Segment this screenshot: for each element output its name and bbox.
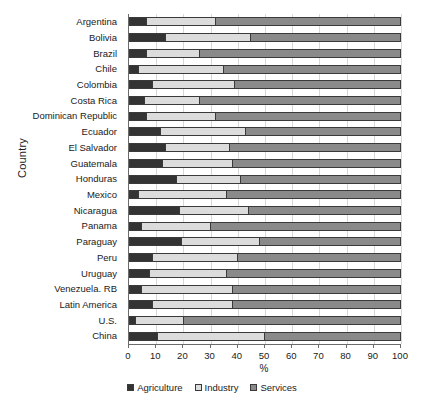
bar-segment-agriculture[interactable]: [130, 207, 179, 214]
bar-segment-agriculture[interactable]: [130, 34, 165, 41]
bar-segment-services[interactable]: [200, 97, 400, 104]
bar-row[interactable]: [129, 140, 401, 156]
bar-segment-agriculture[interactable]: [130, 160, 162, 167]
bar-segment-industry[interactable]: [138, 66, 224, 73]
bar-segment-industry[interactable]: [157, 333, 265, 340]
bar-segment-agriculture[interactable]: [130, 301, 152, 308]
bar-segment-services[interactable]: [249, 207, 400, 214]
bar-segment-agriculture[interactable]: [130, 254, 152, 261]
legend-item[interactable]: Services: [250, 382, 296, 393]
legend-item[interactable]: Agriculture: [127, 382, 182, 393]
bar-row[interactable]: [129, 234, 401, 250]
bar-segment-industry[interactable]: [176, 176, 241, 183]
bar-row[interactable]: [129, 297, 401, 313]
bar-segment-industry[interactable]: [181, 238, 259, 245]
bar-row[interactable]: [129, 14, 401, 30]
bar-segment-industry[interactable]: [152, 301, 233, 308]
bar-segment-industry[interactable]: [165, 34, 251, 41]
bar-segment-industry[interactable]: [162, 160, 232, 167]
stacked-bar[interactable]: [129, 285, 401, 294]
stacked-bar[interactable]: [129, 112, 401, 121]
bar-segment-industry[interactable]: [144, 97, 201, 104]
bar-segment-agriculture[interactable]: [130, 128, 160, 135]
bar-segment-industry[interactable]: [141, 286, 233, 293]
stacked-bar[interactable]: [129, 127, 401, 136]
bar-segment-services[interactable]: [233, 160, 400, 167]
bar-row[interactable]: [129, 328, 401, 344]
bar-segment-agriculture[interactable]: [130, 191, 138, 198]
bar-row[interactable]: [129, 187, 401, 203]
stacked-bar[interactable]: [129, 49, 401, 58]
stacked-bar[interactable]: [129, 300, 401, 309]
bar-segment-services[interactable]: [184, 317, 400, 324]
bar-segment-services[interactable]: [224, 66, 400, 73]
bar-segment-industry[interactable]: [152, 81, 236, 88]
bar-row[interactable]: [129, 266, 401, 282]
stacked-bar[interactable]: [129, 237, 401, 246]
stacked-bar[interactable]: [129, 65, 401, 74]
bar-segment-agriculture[interactable]: [130, 50, 146, 57]
bar-segment-services[interactable]: [200, 50, 400, 57]
bar-segment-industry[interactable]: [152, 254, 238, 261]
bar-row[interactable]: [129, 281, 401, 297]
bar-segment-industry[interactable]: [149, 270, 227, 277]
bar-segment-services[interactable]: [216, 113, 400, 120]
bar-segment-services[interactable]: [260, 238, 400, 245]
stacked-bar[interactable]: [129, 253, 401, 262]
bar-segment-services[interactable]: [227, 191, 400, 198]
stacked-bar[interactable]: [129, 143, 401, 152]
bar-segment-services[interactable]: [230, 144, 400, 151]
bar-segment-agriculture[interactable]: [130, 333, 157, 340]
bar-row[interactable]: [129, 250, 401, 266]
stacked-bar[interactable]: [129, 332, 401, 341]
bar-segment-services[interactable]: [227, 270, 400, 277]
bar-segment-agriculture[interactable]: [130, 176, 176, 183]
bar-segment-agriculture[interactable]: [130, 286, 141, 293]
bar-segment-agriculture[interactable]: [130, 66, 138, 73]
stacked-bar[interactable]: [129, 269, 401, 278]
bar-segment-agriculture[interactable]: [130, 238, 181, 245]
stacked-bar[interactable]: [129, 316, 401, 325]
stacked-bar[interactable]: [129, 206, 401, 215]
bar-segment-agriculture[interactable]: [130, 18, 146, 25]
stacked-bar[interactable]: [129, 175, 401, 184]
bar-segment-services[interactable]: [251, 34, 400, 41]
bar-segment-agriculture[interactable]: [130, 81, 152, 88]
bar-segment-industry[interactable]: [135, 317, 184, 324]
bar-segment-services[interactable]: [216, 18, 400, 25]
bar-segment-agriculture[interactable]: [130, 97, 144, 104]
bar-segment-industry[interactable]: [141, 223, 211, 230]
bar-segment-industry[interactable]: [146, 50, 200, 57]
bar-row[interactable]: [129, 108, 401, 124]
bar-row[interactable]: [129, 61, 401, 77]
bar-segment-industry[interactable]: [146, 113, 216, 120]
stacked-bar[interactable]: [129, 159, 401, 168]
bar-segment-services[interactable]: [265, 333, 400, 340]
stacked-bar[interactable]: [129, 222, 401, 231]
bar-segment-services[interactable]: [241, 176, 400, 183]
bar-segment-services[interactable]: [211, 223, 400, 230]
bar-row[interactable]: [129, 30, 401, 46]
bar-row[interactable]: [129, 124, 401, 140]
bar-row[interactable]: [129, 155, 401, 171]
bar-row[interactable]: [129, 45, 401, 61]
bar-segment-agriculture[interactable]: [130, 144, 165, 151]
bar-segment-agriculture[interactable]: [130, 113, 146, 120]
bar-segment-industry[interactable]: [165, 144, 230, 151]
bar-segment-agriculture[interactable]: [130, 223, 141, 230]
bar-row[interactable]: [129, 93, 401, 109]
bar-segment-industry[interactable]: [138, 191, 227, 198]
bar-segment-services[interactable]: [233, 301, 400, 308]
bar-segment-services[interactable]: [235, 81, 400, 88]
bar-segment-industry[interactable]: [160, 128, 246, 135]
bar-segment-services[interactable]: [238, 254, 400, 261]
bar-segment-services[interactable]: [233, 286, 400, 293]
bar-row[interactable]: [129, 77, 401, 93]
bar-segment-industry[interactable]: [179, 207, 249, 214]
stacked-bar[interactable]: [129, 33, 401, 42]
stacked-bar[interactable]: [129, 96, 401, 105]
bar-segment-agriculture[interactable]: [130, 270, 149, 277]
bar-row[interactable]: [129, 218, 401, 234]
bar-row[interactable]: [129, 171, 401, 187]
bar-segment-services[interactable]: [246, 128, 400, 135]
